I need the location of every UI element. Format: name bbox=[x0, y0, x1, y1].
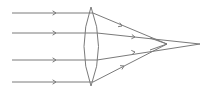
refracted-ray bbox=[93, 44, 167, 82]
lens-ray-diagram bbox=[0, 0, 211, 92]
refracted-ray bbox=[97, 44, 200, 60]
light-rays bbox=[12, 11, 200, 84]
crossed-ray bbox=[150, 38, 167, 44]
lens-outline bbox=[84, 7, 99, 86]
refracted-ray bbox=[97, 33, 200, 44]
convex-lens bbox=[84, 7, 99, 86]
